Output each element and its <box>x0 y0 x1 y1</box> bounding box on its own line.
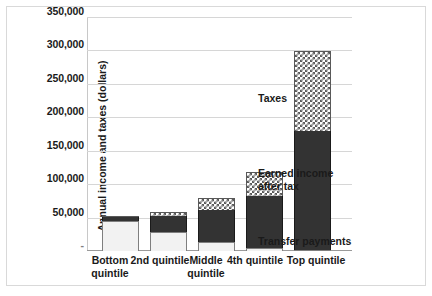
bar-segment-taxes <box>294 51 331 131</box>
annotation-transfer-payments: Transfer payments <box>258 235 351 248</box>
chart-figure: Annual income and taxes (dollars) 350,00… <box>0 0 432 296</box>
bar-segment-transfer-payments <box>198 242 235 251</box>
y-tick-zero: - <box>81 239 85 251</box>
bar-segment-taxes <box>198 198 235 210</box>
y-tick-250000: 250,000 <box>47 72 84 84</box>
annotation-taxes: Taxes <box>258 92 287 105</box>
y-tick-100000: 100,000 <box>47 172 84 184</box>
annotation-earned-income-after-tax: Earned income after tax <box>258 167 333 193</box>
chart-frame: Annual income and taxes (dollars) 350,00… <box>6 6 426 286</box>
bar-middle-quintile[interactable] <box>198 198 235 251</box>
bar-top-quintile[interactable] <box>294 51 331 251</box>
bar-segment-transfer-payments <box>150 232 187 251</box>
bar-segment-earned-income <box>150 216 187 233</box>
y-tick-150000: 150,000 <box>47 139 84 151</box>
bar-segment-transfer-payments <box>294 250 331 251</box>
y-tick-50000: 50,000 <box>52 206 84 218</box>
y-axis-line <box>87 17 88 251</box>
y-tick-350000: 350,000 <box>47 5 84 17</box>
y-tick-300000: 300,000 <box>47 38 84 50</box>
bar-segment-earned-income <box>198 210 235 242</box>
bar-segment-transfer-payments <box>246 248 283 251</box>
x-tick-4th-quintile: 4th quintile <box>223 254 287 267</box>
plot-area <box>87 17 352 251</box>
gridline-350000 <box>87 17 352 18</box>
x-tick-top-quintile: Top quintile <box>284 254 348 267</box>
bar-bottom-quintile[interactable] <box>102 216 139 251</box>
bar-segment-transfer-payments <box>102 221 139 251</box>
bar-2nd-quintile[interactable] <box>150 212 187 251</box>
y-tick-200000: 200,000 <box>47 105 84 117</box>
